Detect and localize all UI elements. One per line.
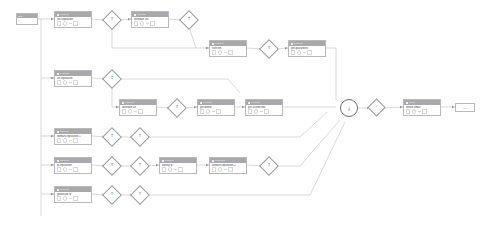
task-card[interactable]: webhook geolocate ip	[54, 186, 92, 203]
task-card-icon-row[interactable]	[248, 109, 280, 113]
square-icon[interactable]	[212, 167, 216, 171]
square-icon[interactable]	[57, 80, 61, 84]
line-icon[interactable]	[69, 198, 72, 199]
task-card[interactable]: webhook get quarantine	[288, 40, 326, 57]
circle-icon[interactable]	[206, 109, 210, 113]
gateway-diamond[interactable]: T	[105, 130, 119, 144]
gateway-diamond[interactable]: T	[182, 13, 196, 27]
square-icon[interactable]	[73, 21, 77, 25]
square-icon[interactable]	[216, 109, 220, 113]
task-card[interactable]: webhook get screenshot	[245, 99, 283, 116]
gateway-diamond[interactable]: T	[133, 159, 147, 173]
square-icon[interactable]	[122, 109, 126, 113]
square-icon[interactable]	[57, 138, 61, 142]
task-card[interactable]: webhook lookup ip	[159, 157, 197, 174]
line-icon[interactable]	[174, 169, 177, 170]
line-icon[interactable]	[69, 169, 72, 170]
square-icon[interactable]	[73, 80, 77, 84]
task-card-icon-row[interactable]	[212, 167, 244, 171]
square-icon[interactable]	[228, 50, 232, 54]
task-card[interactable]: webhook detonate url	[119, 99, 157, 116]
square-icon[interactable]	[264, 109, 268, 113]
circle-icon[interactable]	[218, 167, 222, 171]
square-icon[interactable]	[200, 109, 204, 113]
square-icon[interactable]	[138, 109, 142, 113]
task-card-icon-row[interactable]	[57, 167, 89, 171]
line-icon[interactable]	[69, 23, 72, 24]
circle-icon[interactable]	[168, 167, 172, 171]
line-icon[interactable]	[212, 111, 215, 112]
task-card[interactable]: webhook hunt file	[209, 40, 247, 57]
square-icon[interactable]	[307, 50, 311, 54]
line-icon[interactable]	[224, 169, 227, 170]
task-card-icon-row[interactable]	[162, 167, 194, 171]
gateway-diamond[interactable]: T	[105, 188, 119, 202]
task-card[interactable]: output delete email	[403, 99, 441, 116]
gateway-diamond[interactable]: T	[133, 130, 147, 144]
task-card[interactable]: webhook2 domain-reputation-2	[209, 157, 247, 174]
circle-icon[interactable]	[218, 50, 222, 54]
line-icon[interactable]	[224, 52, 227, 53]
circle-icon[interactable]	[63, 138, 67, 142]
square-icon[interactable]	[422, 109, 426, 113]
task-card-icon-row[interactable]	[122, 109, 154, 113]
task-card-icon-row[interactable]	[200, 109, 232, 113]
circle-icon[interactable]	[63, 21, 67, 25]
line-icon[interactable]	[134, 111, 137, 112]
line-icon[interactable]	[69, 82, 72, 83]
task-card-icon-row[interactable]	[57, 196, 89, 200]
square-icon[interactable]	[406, 109, 410, 113]
square-icon[interactable]	[57, 167, 61, 171]
gateway-diamond[interactable]: <	[370, 101, 383, 114]
square-icon[interactable]	[57, 196, 61, 200]
task-card-icon-row[interactable]	[406, 109, 438, 113]
gateway-diamond[interactable]: T	[133, 188, 147, 202]
circle-icon[interactable]	[63, 196, 67, 200]
square-icon[interactable]	[73, 167, 77, 171]
task-card-icon-row[interactable]	[134, 21, 166, 25]
circle-icon[interactable]	[412, 109, 416, 113]
square-icon[interactable]	[178, 167, 182, 171]
square-icon[interactable]	[150, 21, 154, 25]
circle-icon[interactable]	[297, 50, 301, 54]
square-icon[interactable]	[73, 196, 77, 200]
task-card[interactable]: webhook ip-reputation	[54, 157, 92, 174]
task-card-icon-row[interactable]	[212, 50, 244, 54]
square-icon[interactable]	[291, 50, 295, 54]
line-icon[interactable]	[303, 52, 306, 53]
task-card[interactable]: webhook detonate file	[131, 11, 169, 28]
task-card[interactable]: webhook domain-reputation-1	[54, 128, 92, 145]
line-icon[interactable]	[69, 140, 72, 141]
square-icon[interactable]	[248, 109, 252, 113]
square-icon[interactable]	[212, 50, 216, 54]
circle-icon[interactable]	[63, 80, 67, 84]
line-icon[interactable]	[418, 111, 421, 112]
gateway-diamond[interactable]: T	[105, 72, 119, 86]
line-icon[interactable]	[260, 111, 263, 112]
circle-icon[interactable]	[63, 167, 67, 171]
end-node[interactable]: end	[455, 103, 475, 112]
circle-icon[interactable]	[140, 21, 144, 25]
task-card-icon-row[interactable]	[57, 21, 89, 25]
square-icon[interactable]	[162, 167, 166, 171]
merge-node[interactable]: ⤓	[340, 99, 358, 117]
task-card[interactable]: webhook url-reputation	[54, 70, 92, 87]
line-icon[interactable]	[146, 23, 149, 24]
gateway-diamond[interactable]: T	[105, 159, 119, 173]
task-card-icon-row[interactable]	[57, 138, 89, 142]
circle-icon[interactable]	[128, 109, 132, 113]
task-card-icon-row[interactable]	[57, 80, 89, 84]
task-card[interactable]: webhook file-reputation	[54, 11, 92, 28]
workflow-canvas[interactable]: start id webhook file-reputation webhook…	[0, 0, 499, 226]
gateway-diamond[interactable]: T	[262, 159, 276, 173]
start-node[interactable]: start id	[16, 13, 38, 25]
gateway-diamond[interactable]: T	[262, 42, 276, 56]
gateway-diamond[interactable]: T	[170, 101, 184, 115]
gateway-diamond[interactable]: T	[105, 13, 119, 27]
task-card[interactable]: webhook get button	[197, 99, 235, 116]
task-card-icon-row[interactable]	[291, 50, 323, 54]
square-icon[interactable]	[134, 21, 138, 25]
square-icon[interactable]	[57, 21, 61, 25]
circle-icon[interactable]	[254, 109, 258, 113]
square-icon[interactable]	[228, 167, 232, 171]
